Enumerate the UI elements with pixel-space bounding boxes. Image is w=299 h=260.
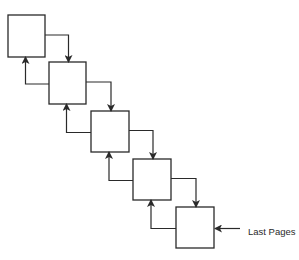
page-box-2	[49, 62, 86, 104]
next-arrow-3	[129, 131, 153, 160]
prev-arrow-2	[26, 57, 50, 84]
last-pages-label: Last Pages	[248, 226, 296, 237]
page-box-3	[91, 111, 129, 152]
next-arrow-4	[171, 179, 196, 208]
prev-arrow-5	[151, 200, 176, 229]
prev-arrow-3	[67, 104, 92, 133]
next-arrow-2	[86, 82, 111, 111]
page-chain-diagram	[0, 0, 299, 260]
page-box-4	[133, 159, 171, 200]
page-box-1	[8, 15, 45, 57]
prev-arrow-4	[109, 152, 133, 181]
page-box-5	[176, 207, 214, 248]
next-arrow-1	[45, 35, 69, 62]
